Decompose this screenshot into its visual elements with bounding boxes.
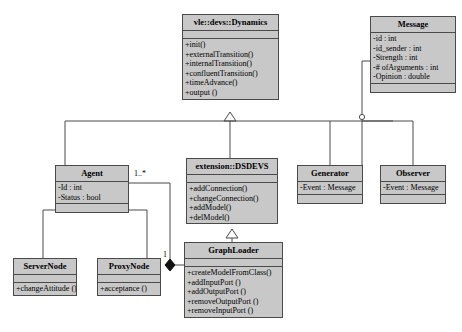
attribute-item: -Opinion : double (373, 72, 453, 82)
class-operations-message (371, 84, 455, 92)
operation-item: +delModel() (189, 213, 275, 223)
operation-item: +output () (185, 88, 276, 98)
operation-item: +internalTransition() (185, 59, 276, 69)
uml-class-diagram: vle::devs::Dynamics +init() +externalTra… (0, 0, 462, 332)
operation-item: +createModelFromClass() (187, 268, 280, 278)
class-attributes-generator: -Event : Message (298, 182, 362, 195)
class-attributes-observer: -Event : Message (381, 182, 445, 195)
operation-item: +init() (185, 40, 276, 50)
class-name-generator: Generator (298, 166, 362, 182)
class-operations-observer (381, 195, 445, 203)
operation-item: +removeInputPort () (187, 306, 280, 316)
attribute-item: -id : int (373, 34, 453, 44)
class-box-message[interactable]: Message -id : int -id_sender : int -Stre… (370, 16, 456, 93)
class-name-message: Message (371, 17, 455, 33)
operation-item: +externalTransition() (185, 50, 276, 60)
class-name-dynamics: vle::devs::Dynamics (183, 15, 278, 31)
operation-item: +addModel() (189, 203, 275, 213)
class-attributes-agent: -Id : int -Status : bool (56, 182, 128, 204)
class-name-observer: Observer (381, 166, 445, 182)
attribute-item: -id_sender : int (373, 44, 453, 54)
class-attributes-proxynode (98, 275, 160, 283)
class-box-graphloader[interactable]: GraphLoader +createModelFromClass() +add… (184, 242, 283, 318)
operation-item: +timeAdvance() (185, 78, 276, 88)
attribute-item: -Status : bool (58, 193, 126, 203)
class-operations-proxynode: +acceptance () (98, 283, 160, 295)
class-box-proxynode[interactable]: ProxyNode +acceptance () (97, 258, 161, 296)
class-operations-agent (56, 204, 128, 212)
generalization-graphloader-dsdevs (226, 229, 238, 242)
operation-item: +changeAttitude () (16, 284, 74, 294)
class-operations-dynamics: +init() +externalTransition() +internalT… (183, 39, 278, 99)
attribute-item: -Id : int (58, 183, 126, 193)
multiplicity-agent-many: 1..* (134, 169, 146, 178)
class-name-agent: Agent (56, 166, 128, 182)
class-operations-servernode: +changeAttitude () (14, 283, 76, 295)
class-box-observer[interactable]: Observer -Event : Message (380, 165, 446, 204)
class-box-agent[interactable]: Agent -Id : int -Status : bool (55, 165, 129, 213)
operation-item: +changeConnection() (189, 194, 275, 204)
operation-item: +acceptance () (100, 284, 158, 294)
class-attributes-message: -id : int -id_sender : int -Strength : i… (371, 33, 455, 84)
class-operations-generator (298, 195, 362, 203)
class-attributes-dsdevs (187, 175, 277, 183)
attribute-item: -Strength : int (373, 53, 453, 63)
class-box-dynamics[interactable]: vle::devs::Dynamics +init() +externalTra… (182, 14, 279, 100)
class-name-proxynode: ProxyNode (98, 259, 160, 275)
attribute-item: -# ofArguments : int (373, 63, 453, 73)
attribute-item: -Event : Message (300, 183, 360, 193)
class-attributes-servernode (14, 275, 76, 283)
multiplicity-graphloader-one: 1 (163, 250, 167, 259)
class-name-graphloader: GraphLoader (185, 243, 282, 259)
class-box-generator[interactable]: Generator -Event : Message (297, 165, 363, 204)
class-operations-dsdevs: +addConnection() +changeConnection() +ad… (187, 183, 277, 223)
operation-item: +addOutputPort () (187, 287, 280, 297)
operation-item: +confluentTransition() (185, 69, 276, 79)
class-operations-graphloader: +createModelFromClass() +addInputPort ()… (185, 267, 282, 317)
operation-item: +removeOutputPort () (187, 297, 280, 307)
class-attributes-dynamics (183, 31, 278, 39)
operation-item: +addConnection() (189, 184, 275, 194)
attribute-item: -Event : Message (383, 183, 443, 193)
class-box-servernode[interactable]: ServerNode +changeAttitude () (13, 258, 77, 296)
class-name-servernode: ServerNode (14, 259, 76, 275)
class-name-dsdevs: extension::DSDEVS (187, 159, 277, 175)
class-box-dsdevs[interactable]: extension::DSDEVS +addConnection() +chan… (186, 158, 278, 224)
class-attributes-graphloader (185, 259, 282, 267)
operation-item: +addInputPort () (187, 278, 280, 288)
